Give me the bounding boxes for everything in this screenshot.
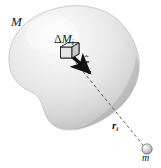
unit-vector-label: ˆr [84, 57, 89, 69]
physics-diagram-figure: M ΔMi ˆr ri m [0, 0, 161, 168]
hat-accent-icon: ˆ [84, 54, 88, 65]
mass-element-label: ΔMi [54, 33, 74, 47]
point-mass-label: m [142, 153, 149, 163]
diagram-canvas [0, 0, 161, 168]
body-mass-label: M [11, 15, 22, 28]
distance-label: ri [112, 120, 118, 133]
extended-body-blob [9, 6, 139, 130]
